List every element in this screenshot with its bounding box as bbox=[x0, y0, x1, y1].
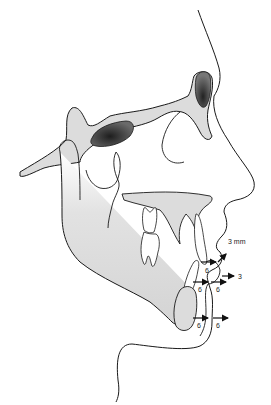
nasal-ala bbox=[162, 112, 184, 163]
orbit-shadow bbox=[195, 72, 211, 108]
label-upper-lip-vertical: 3 mm bbox=[228, 238, 246, 245]
label-chin-bone: 6 bbox=[197, 322, 201, 329]
label-upper-lip: 3 bbox=[238, 273, 242, 280]
upper-incisor bbox=[195, 214, 207, 264]
cephalometric-diagram: 3 mm 3 6 6 6 6 6 bbox=[0, 0, 271, 405]
label-incisor-edge: 6 bbox=[205, 267, 209, 274]
label-lower-lip: 6 bbox=[216, 286, 220, 293]
label-lower-incisor: 6 bbox=[198, 286, 202, 293]
label-chin-soft: 6 bbox=[216, 322, 220, 329]
upper-molar bbox=[143, 208, 157, 233]
